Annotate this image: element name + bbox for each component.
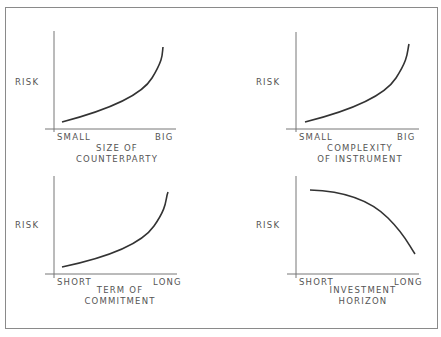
y-axis-label: RISK <box>15 77 39 87</box>
risk-curve <box>62 47 163 122</box>
panel-complexity-of-instrument <box>286 32 419 132</box>
caption-line-1: INVESTMENT <box>318 285 408 296</box>
caption-line-2: HORIZON <box>318 296 408 307</box>
caption-line-2: COUNTERPARTY <box>72 154 162 165</box>
x-axis-caption: SIZE OF COUNTERPARTY <box>72 143 162 165</box>
x-max-label: BIG <box>155 132 174 142</box>
y-axis-label: RISK <box>256 77 280 87</box>
panel-investment-horizon <box>287 176 419 278</box>
y-axis-label: RISK <box>15 220 39 230</box>
caption-line-1: TERM OF <box>75 285 165 296</box>
x-axis-caption: TERM OF COMMITMENT <box>75 285 165 307</box>
x-min-label: SMALL <box>57 132 91 142</box>
x-axis-caption: INVESTMENT HORIZON <box>318 285 408 307</box>
x-min-label: SMALL <box>299 132 333 142</box>
panel-size-of-counterparty <box>45 31 176 132</box>
panel-term-of-commitment <box>45 176 177 278</box>
y-axis-label: RISK <box>256 220 280 230</box>
caption-line-1: COMPLEXITY <box>310 143 410 154</box>
caption-line-2: COMMITMENT <box>75 296 165 307</box>
risk-curve <box>305 44 409 122</box>
risk-curve <box>310 190 415 254</box>
risk-curve <box>62 192 168 267</box>
caption-line-1: SIZE OF <box>72 143 162 154</box>
caption-line-2: OF INSTRUMENT <box>310 154 410 165</box>
x-axis-caption: COMPLEXITY OF INSTRUMENT <box>310 143 410 165</box>
x-max-label: BIG <box>397 132 416 142</box>
